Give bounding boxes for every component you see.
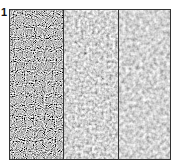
smooth-noise-texture bbox=[119, 10, 170, 159]
noise-panel-1 bbox=[10, 10, 64, 159]
panel-label: 1 bbox=[1, 7, 7, 18]
noise-panel-3 bbox=[119, 10, 170, 159]
noise-panel-2 bbox=[64, 10, 119, 159]
blotchy-noise-texture bbox=[64, 10, 118, 159]
texture-figure-frame bbox=[9, 9, 171, 160]
fine-noise-texture bbox=[10, 10, 63, 159]
